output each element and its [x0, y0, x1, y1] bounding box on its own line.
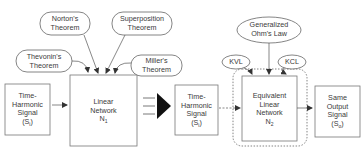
norton-line2: Theorem	[40, 24, 90, 33]
superposition-label: Superposition Theorem	[112, 15, 172, 32]
linear-network-label: Linear Network N1	[70, 98, 137, 125]
equiv-symbol: N2	[242, 118, 297, 128]
miller-line2: Theorem	[131, 66, 182, 75]
input-signal-label-2: Time- Harmonic Signal (Si)	[175, 93, 218, 129]
thevenin-label: Thevonin's Theorem	[16, 53, 72, 70]
output-symbol: (So)	[315, 120, 360, 130]
ohm-line2: Ohm's Law	[237, 30, 301, 39]
norton-label: Norton's Theorem	[40, 15, 90, 32]
ohm-law-label: Generalized Ohm's Law	[237, 21, 301, 38]
thevenin-line2: Theorem	[16, 62, 72, 71]
superposition-arrow	[106, 35, 125, 73]
output-signal-label: Same Output Signal (So)	[315, 94, 360, 130]
miller-arrow	[115, 63, 131, 73]
transform-arrow	[143, 93, 171, 119]
kvl-label: KVL	[222, 58, 250, 67]
kcl-label: KCL	[278, 58, 306, 67]
input2-symbol: (Si)	[175, 119, 218, 129]
input1-symbol: (Si)	[5, 118, 50, 128]
equivalent-network-label: Equivalent Linear Network N2	[242, 92, 297, 128]
linear-symbol: N1	[70, 115, 137, 125]
thevenin-arrow	[72, 61, 88, 72]
input-signal-label-1: Time- Harmonic Signal (Si)	[5, 92, 50, 128]
norton-arrow	[84, 35, 98, 73]
miller-label: Miller's Theorem	[131, 57, 182, 74]
superposition-line2: Theorem	[112, 24, 172, 33]
